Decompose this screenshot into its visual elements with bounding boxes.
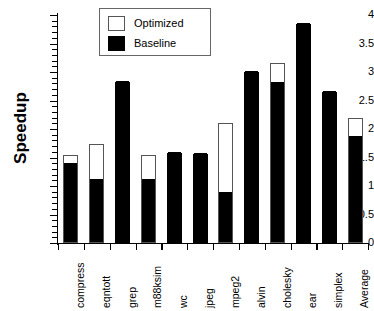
y-tick-0 xyxy=(50,243,58,244)
y-minor-tick xyxy=(52,123,57,124)
bar-simplex xyxy=(322,92,337,243)
bar-m88ksim xyxy=(141,155,156,243)
x-axis-label-average: Average xyxy=(359,269,370,308)
bar-cholesky xyxy=(270,63,285,243)
x-axis-label-grep: grep xyxy=(127,287,138,308)
x-tick xyxy=(213,244,214,250)
y-tick-2 xyxy=(50,129,58,130)
x-tick xyxy=(110,244,111,250)
x-axis-label-simplex: simplex xyxy=(333,272,344,308)
y-minor-tick xyxy=(52,226,57,227)
y-tick-1 xyxy=(50,186,58,187)
y-tick-label-3: 3 xyxy=(330,65,374,77)
y-tick-1.5 xyxy=(50,158,58,159)
y-minor-tick xyxy=(52,32,57,33)
bar-wc xyxy=(167,153,182,243)
bar-baseline-ear xyxy=(297,23,310,242)
bar-baseline-grep xyxy=(116,81,129,242)
y-minor-tick xyxy=(52,38,57,39)
y-minor-tick xyxy=(52,237,57,238)
bar-baseline-cholesky xyxy=(271,82,284,242)
y-tick-4 xyxy=(50,15,58,16)
y-minor-tick xyxy=(52,106,57,107)
y-minor-tick xyxy=(52,118,57,119)
legend-label-optimized: Optimized xyxy=(134,17,184,29)
x-tick xyxy=(239,244,240,250)
y-minor-tick xyxy=(52,66,57,67)
x-tick xyxy=(84,244,85,250)
x-tick xyxy=(342,244,343,250)
bar-optimized-ear xyxy=(296,24,311,243)
y-minor-tick xyxy=(52,49,57,50)
bar-baseline-simplex xyxy=(323,91,336,242)
bar-optimized-jpeg xyxy=(193,154,208,243)
legend-entry-optimized: Optimized xyxy=(108,14,184,32)
bar-optimized-average xyxy=(348,118,363,243)
y-minor-tick xyxy=(52,21,57,22)
x-axis-label-ear: ear xyxy=(307,293,318,308)
x-tick xyxy=(316,244,317,250)
bar-baseline-wc xyxy=(168,152,181,242)
y-tick-2.5 xyxy=(50,101,58,102)
bar-average xyxy=(348,118,363,243)
bar-optimized-eqntott xyxy=(89,144,104,243)
y-minor-tick xyxy=(52,163,57,164)
y-minor-tick xyxy=(52,169,57,170)
y-minor-tick xyxy=(52,135,57,136)
x-axis-label-mpeg2: mpeg2 xyxy=(230,276,241,308)
chart-legend: Optimized Baseline xyxy=(99,8,211,56)
x-tick xyxy=(291,244,292,250)
x-axis-label-m88ksim: m88ksim xyxy=(152,266,163,308)
x-axis-label-alvin: alvin xyxy=(256,286,267,308)
speedup-bar-chart: Speedup 00.511.522.533.54 compresseqntot… xyxy=(0,0,374,311)
y-minor-tick xyxy=(52,192,57,193)
y-tick-0.5 xyxy=(50,215,58,216)
bar-optimized-wc xyxy=(167,153,182,243)
y-minor-tick xyxy=(52,140,57,141)
bar-baseline-alvin xyxy=(245,71,258,242)
bar-optimized-grep xyxy=(115,82,130,243)
x-tick xyxy=(161,244,162,250)
y-minor-tick xyxy=(52,203,57,204)
bar-baseline-m88ksim xyxy=(142,179,155,242)
y-tick-3 xyxy=(50,72,58,73)
y-axis-title: Speedup xyxy=(11,83,31,173)
bar-optimized-simplex xyxy=(322,92,337,243)
x-tick xyxy=(368,244,369,250)
y-minor-tick xyxy=(52,180,57,181)
bar-baseline-compress xyxy=(64,163,77,242)
y-tick-label-4: 4 xyxy=(330,8,374,20)
legend-entry-baseline: Baseline xyxy=(108,34,176,52)
x-axis-label-wc: wc xyxy=(178,295,189,308)
legend-swatch-baseline xyxy=(108,36,125,51)
legend-label-baseline: Baseline xyxy=(134,37,176,49)
y-minor-tick xyxy=(52,61,57,62)
bar-eqntott xyxy=(89,144,104,243)
y-minor-tick xyxy=(52,26,57,27)
bar-baseline-mpeg2 xyxy=(219,192,232,242)
x-tick xyxy=(265,244,266,250)
y-minor-tick xyxy=(52,232,57,233)
x-axis-label-cholesky: cholesky xyxy=(282,267,293,308)
y-minor-tick xyxy=(52,83,57,84)
bar-optimized-m88ksim xyxy=(141,155,156,243)
bar-optimized-mpeg2 xyxy=(218,123,233,243)
x-tick xyxy=(136,244,137,250)
bar-alvin xyxy=(244,72,259,243)
x-axis-label-eqntott: eqntott xyxy=(101,276,112,308)
y-minor-tick xyxy=(52,55,57,56)
y-minor-tick xyxy=(52,197,57,198)
bar-compress xyxy=(63,155,78,243)
bar-grep xyxy=(115,82,130,243)
x-tick xyxy=(187,244,188,250)
bar-baseline-jpeg xyxy=(194,153,207,242)
bar-mpeg2 xyxy=(218,123,233,243)
bar-optimized-compress xyxy=(63,155,78,243)
y-minor-tick xyxy=(52,112,57,113)
y-minor-tick xyxy=(52,146,57,147)
y-minor-tick xyxy=(52,209,57,210)
bar-ear xyxy=(296,24,311,243)
y-minor-tick xyxy=(52,220,57,221)
bar-optimized-alvin xyxy=(244,72,259,243)
legend-swatch-optimized xyxy=(108,16,125,31)
